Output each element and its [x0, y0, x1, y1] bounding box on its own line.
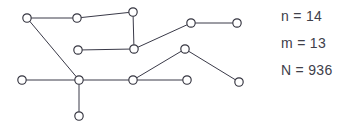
graph-edge [82, 49, 130, 50]
graph-node [235, 78, 243, 86]
graph-node [75, 112, 83, 120]
graph-node [18, 76, 26, 84]
stat-line-N: N = 936 [281, 62, 355, 79]
graph-node [187, 19, 195, 27]
graph-node [181, 45, 189, 53]
graph-node [130, 45, 138, 53]
graph-edge [189, 51, 236, 80]
graph-edge [137, 51, 182, 78]
graph-edge [138, 25, 187, 48]
graph-node [129, 8, 137, 16]
stat-line-n: n = 14 [281, 8, 355, 25]
graph-node [75, 76, 83, 84]
graph-figure: n = 14 m = 13 N = 936 [0, 0, 358, 131]
graph-edge [81, 12, 129, 17]
graph-node [129, 76, 137, 84]
graph-node [23, 14, 31, 22]
stats-panel: n = 14 m = 13 N = 936 [281, 8, 355, 79]
stat-line-m: m = 13 [281, 35, 355, 52]
graph-edge [30, 21, 77, 77]
edge-layer [26, 12, 235, 111]
graph-node [73, 14, 81, 22]
graph-node [233, 19, 241, 27]
graph-node [74, 46, 82, 54]
graph-edge [133, 16, 134, 45]
graph-node [183, 76, 191, 84]
